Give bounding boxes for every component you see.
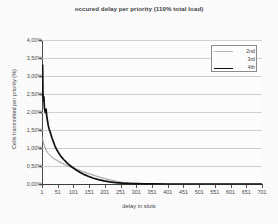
legend-item-4th[interactable]: 4th — [214, 64, 256, 73]
y-tick-label: 3,50% — [2, 55, 42, 61]
series-line-3rd — [42, 136, 262, 184]
y-tick-label: 3,00% — [2, 73, 42, 79]
x-tick-mark — [246, 185, 247, 188]
x-tick-mark — [231, 185, 232, 188]
series-line-4th — [42, 65, 262, 184]
legend-swatch-4th — [214, 68, 233, 70]
x-tick-mark — [105, 185, 106, 188]
chart-legend: 2nd3rd4th — [211, 45, 257, 72]
legend-label-3rd: 3rd — [248, 56, 256, 62]
x-tick-mark — [58, 185, 59, 188]
x-tick-mark — [152, 185, 153, 188]
y-tick-label: 0,00% — [2, 181, 42, 187]
y-tick-label: 4,00% — [2, 37, 42, 43]
x-tick-mark — [183, 185, 184, 188]
x-tick-mark — [168, 185, 169, 188]
legend-label-2nd: 2nd — [246, 48, 255, 54]
x-tick-mark — [136, 185, 137, 188]
legend-label-4th: 4th — [248, 64, 255, 70]
y-tick-label: 1,50% — [2, 127, 42, 133]
y-axis-title: Cells transmitted per priority (%) — [11, 39, 17, 179]
y-tick-label: 0,50% — [2, 163, 42, 169]
x-tick-mark — [42, 185, 43, 188]
x-tick-mark — [89, 185, 90, 188]
y-tick-label: 2,00% — [2, 109, 42, 115]
y-tick-label: 1,00% — [2, 145, 42, 151]
x-tick-mark — [73, 185, 74, 188]
x-tick-mark — [121, 185, 122, 188]
x-tick-mark — [199, 185, 200, 188]
x-tick-mark — [262, 185, 263, 188]
y-tick-label: 2,50% — [2, 91, 42, 97]
legend-swatch-2nd — [214, 51, 233, 52]
x-tick-mark — [215, 185, 216, 188]
chart-figure: occured delay per priority (110% total l… — [0, 0, 278, 224]
x-tick-label: 701 — [251, 189, 273, 195]
series-line-2nd — [42, 138, 262, 184]
chart-title: occured delay per priority (110% total l… — [0, 5, 278, 12]
x-axis-title: delay in slots — [0, 203, 278, 209]
legend-swatch-3rd — [214, 59, 233, 60]
